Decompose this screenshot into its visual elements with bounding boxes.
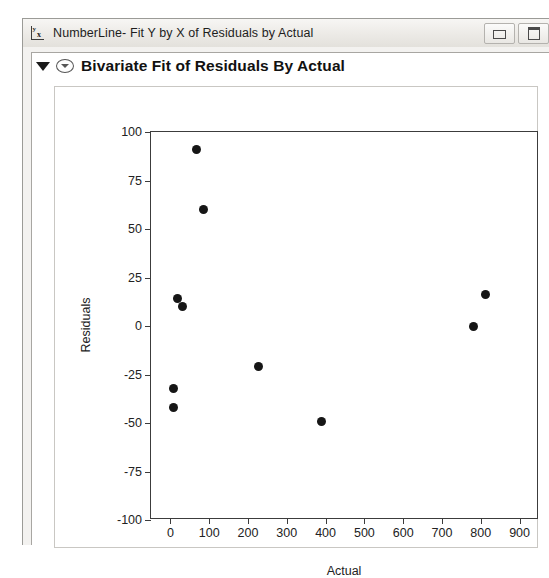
maximize-button[interactable] bbox=[518, 23, 549, 44]
x-axis-tick bbox=[442, 518, 443, 524]
x-axis-tick bbox=[403, 518, 404, 524]
x-axis-tick bbox=[287, 518, 288, 524]
x-axis-tick-label: 700 bbox=[432, 526, 453, 540]
data-point[interactable] bbox=[169, 403, 178, 412]
x-axis-tick-label: 100 bbox=[199, 526, 220, 540]
window-title: NumberLine- Fit Y by X of Residuals by A… bbox=[53, 26, 313, 40]
y-axis-tick bbox=[145, 520, 151, 521]
y-axis-tick bbox=[145, 278, 151, 279]
x-axis-tick-label: 400 bbox=[315, 526, 336, 540]
x-axis-tick bbox=[481, 518, 482, 524]
y-axis-tick-label: 0 bbox=[135, 319, 142, 333]
x-axis-tick bbox=[209, 518, 210, 524]
x-axis-tick-label: 200 bbox=[238, 526, 259, 540]
data-point[interactable] bbox=[469, 322, 478, 331]
y-axis-tick-label: 100 bbox=[121, 125, 142, 139]
y-axis-tick bbox=[145, 229, 151, 230]
y-axis-tick-label: 25 bbox=[128, 271, 142, 285]
scatter-plot: Residuals Actual 1007550250-25-50-75-100… bbox=[54, 86, 538, 548]
y-axis-tick-label: -100 bbox=[117, 513, 142, 527]
disclosure-oval-icon[interactable] bbox=[56, 59, 74, 73]
y-axis-tick bbox=[145, 181, 151, 182]
maximize-icon bbox=[528, 27, 540, 40]
window-controls bbox=[484, 23, 549, 44]
x-axis-tick bbox=[364, 518, 365, 524]
y-axis-tick bbox=[145, 132, 151, 133]
y-axis-tick bbox=[145, 375, 151, 376]
minimize-icon bbox=[493, 30, 506, 39]
icon-glyph-y: y bbox=[33, 25, 37, 33]
data-point[interactable] bbox=[178, 302, 187, 311]
data-point[interactable] bbox=[199, 205, 208, 214]
data-point[interactable] bbox=[169, 384, 178, 393]
section-header[interactable]: Bivariate Fit of Residuals By Actual bbox=[32, 53, 549, 79]
data-point[interactable] bbox=[481, 290, 490, 299]
x-axis-tick bbox=[520, 518, 521, 524]
icon-glyph-x: x bbox=[37, 30, 41, 39]
report-panel: Bivariate Fit of Residuals By Actual Res… bbox=[31, 52, 549, 545]
y-axis-tick-label: 75 bbox=[128, 174, 142, 188]
x-axis-tick bbox=[248, 518, 249, 524]
x-axis-tick-label: 900 bbox=[509, 526, 530, 540]
x-axis-tick-label: 300 bbox=[276, 526, 297, 540]
y-axis-tick bbox=[145, 472, 151, 473]
x-axis-tick-label: 500 bbox=[354, 526, 375, 540]
y-axis-tick-label: -50 bbox=[124, 416, 142, 430]
minimize-button[interactable] bbox=[484, 23, 515, 44]
y-axis-tick-label: -25 bbox=[124, 368, 142, 382]
x-axis-tick-label: 800 bbox=[470, 526, 491, 540]
data-point[interactable] bbox=[317, 417, 326, 426]
y-axis-tick bbox=[145, 423, 151, 424]
y-axis-tick-label: -75 bbox=[124, 465, 142, 479]
y-axis-title: Residuals bbox=[79, 298, 93, 353]
y-axis-tick-label: 50 bbox=[128, 222, 142, 236]
section-title: Bivariate Fit of Residuals By Actual bbox=[81, 57, 345, 75]
triangle-down-icon[interactable] bbox=[36, 62, 50, 71]
x-axis-tick bbox=[326, 518, 327, 524]
window-title-bar[interactable]: y x NumberLine- Fit Y by X of Residuals … bbox=[23, 19, 549, 47]
x-axis-tick-label: 0 bbox=[167, 526, 174, 540]
application-window: y x NumberLine- Fit Y by X of Residuals … bbox=[22, 18, 549, 545]
numberline-icon: y x bbox=[31, 26, 46, 41]
x-axis-title: Actual bbox=[327, 564, 362, 578]
x-axis-tick-label: 600 bbox=[393, 526, 414, 540]
data-point[interactable] bbox=[192, 145, 201, 154]
data-point[interactable] bbox=[254, 362, 263, 371]
plot-frame: 1007550250-25-50-75-100 0100200300400500… bbox=[150, 131, 538, 519]
y-axis-tick bbox=[145, 326, 151, 327]
x-axis-tick bbox=[170, 518, 171, 524]
